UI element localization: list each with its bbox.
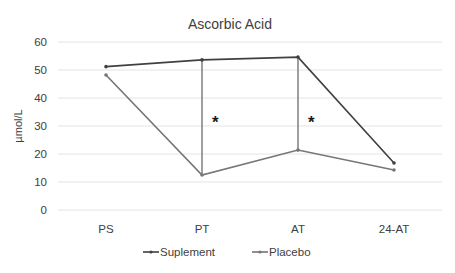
significance-marker: *	[212, 113, 219, 132]
legend-item: Suplement	[143, 246, 216, 258]
legend-label: Suplement	[160, 246, 216, 258]
data-point	[200, 58, 204, 62]
y-tick-label: 40	[34, 92, 47, 104]
chart: Ascorbic Acid µmol/L 0102030405060 PSPTA…	[0, 0, 455, 273]
y-tick-label: 20	[34, 148, 47, 160]
y-axis-label: µmol/L	[12, 109, 24, 142]
y-tick-label: 60	[34, 36, 47, 48]
significance-marker: *	[308, 113, 315, 132]
legend-item: Placebo	[252, 246, 311, 258]
legend-label: Placebo	[269, 246, 311, 258]
data-point	[296, 148, 300, 152]
annotations: **	[212, 113, 315, 132]
series-line	[106, 75, 394, 175]
y-tick-labels: 0102030405060	[34, 36, 47, 216]
x-tick-label: 24-AT	[379, 223, 409, 235]
y-tick-label: 0	[41, 204, 47, 216]
legend: SuplementPlacebo	[143, 246, 311, 258]
y-tick-label: 10	[34, 176, 47, 188]
data-point	[392, 168, 396, 172]
series-placebo	[104, 73, 396, 177]
legend-marker	[258, 250, 261, 253]
data-point	[392, 161, 396, 165]
data-point	[200, 173, 204, 177]
x-tick-labels: PSPTAT24-AT	[98, 223, 409, 235]
x-tick-label: PT	[195, 223, 210, 235]
x-tick-label: AT	[291, 223, 305, 235]
data-point	[104, 73, 108, 77]
data-point	[104, 65, 108, 69]
gridlines	[58, 42, 442, 210]
y-tick-label: 50	[34, 64, 47, 76]
series-suplement	[104, 55, 396, 164]
legend-marker	[149, 250, 152, 253]
x-tick-label: PS	[98, 223, 114, 235]
y-tick-label: 30	[34, 120, 47, 132]
data-point	[296, 55, 300, 59]
series-line	[106, 57, 394, 163]
series	[104, 55, 396, 176]
chart-title: Ascorbic Acid	[188, 16, 272, 32]
